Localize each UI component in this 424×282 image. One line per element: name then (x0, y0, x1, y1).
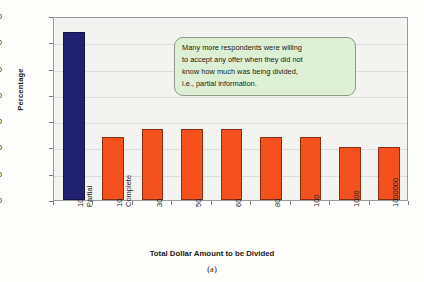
y-axis-title: Percentage (16, 50, 25, 130)
annotation-line: i.e., partial information. (182, 78, 348, 90)
y-tick-label: 20 (0, 143, 2, 152)
bar (102, 137, 124, 200)
y-tick-label: 50 (0, 65, 2, 74)
bar (260, 137, 282, 200)
y-tick-label: 30 (0, 117, 2, 126)
figure-container: Percentage 010203040506070 10Partial10Co… (0, 0, 424, 282)
annotation-line: know how much was being divided, (182, 66, 348, 78)
annotation-callout: Many more respondents were willingto acc… (174, 37, 356, 96)
bar (221, 129, 243, 200)
y-tick-label: 40 (0, 91, 2, 100)
y-tick-label: 10 (0, 170, 2, 179)
y-tick-label: 70 (0, 12, 2, 21)
figure-caption: (a) (0, 264, 424, 274)
x-tick-label: 10 (115, 199, 124, 207)
y-tick-label: 60 (0, 38, 2, 47)
x-tick-label: 100 (312, 194, 321, 207)
x-tick-mark (290, 201, 291, 205)
x-tick-label: 50 (194, 199, 203, 207)
x-tick-label-secondary: Complete (124, 175, 133, 207)
x-tick-mark (53, 201, 54, 205)
x-tick-mark (211, 201, 212, 205)
bar (142, 129, 164, 200)
x-tick-mark (171, 201, 172, 205)
x-tick-label: 10 (76, 199, 85, 207)
x-axis-title: Total Dollar Amount to be Divided (0, 249, 424, 258)
x-tick-label: 1000 (352, 190, 361, 207)
x-tick-mark (408, 201, 409, 205)
x-tick-mark (369, 201, 370, 205)
bar (181, 129, 203, 200)
annotation-line: Many more respondents were willing (182, 42, 348, 54)
x-tick-label: 30 (155, 199, 164, 207)
x-tick-label: 60 (234, 199, 243, 207)
bar (63, 32, 85, 200)
annotation-line: to accept any offer when they did not (182, 54, 348, 66)
gridline (54, 97, 407, 98)
x-tick-mark (250, 201, 251, 205)
x-tick-mark (329, 201, 330, 205)
x-tick-label: 80 (273, 199, 282, 207)
y-tick-label: 0 (0, 196, 2, 205)
x-tick-label-secondary: Partial (85, 186, 94, 207)
x-tick-label: 1000000 (391, 178, 400, 207)
bar (300, 137, 322, 200)
gridline (54, 123, 407, 124)
